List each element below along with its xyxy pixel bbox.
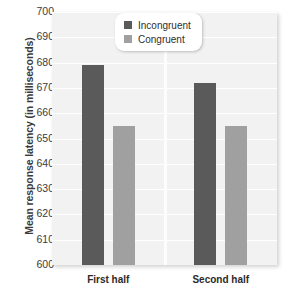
x-axis-tick-label: First half: [52, 274, 165, 285]
y-axis-tick-label: 660: [14, 106, 54, 118]
y-axis-tick-label: 670: [14, 81, 54, 93]
y-axis-tick-label: 690: [14, 30, 54, 42]
y-axis-tick-label: 600: [14, 258, 54, 270]
legend-swatch-icon: [124, 21, 132, 29]
legend-item-label: Incongruent: [138, 20, 191, 31]
y-axis-tick-label: 680: [14, 56, 54, 68]
legend-item: Incongruent: [124, 18, 191, 32]
legend-item: Congruent: [124, 32, 191, 46]
legend-swatch-icon: [124, 35, 132, 43]
x-axis-tick-label: Second half: [165, 274, 278, 285]
y-axis-tick-label: 620: [14, 207, 54, 219]
bar-chart: Mean response latency (in milliseconds) …: [0, 0, 286, 299]
y-axis-tick-label: 630: [14, 182, 54, 194]
legend-item-label: Congruent: [138, 34, 185, 45]
bar-congruent-first-half: [113, 126, 135, 265]
bar-incongruent-second-half: [194, 83, 216, 265]
y-axis-tick-label: 640: [14, 157, 54, 169]
y-axis-tick-label: 610: [14, 233, 54, 245]
bar-congruent-second-half: [225, 126, 247, 265]
chart-legend: IncongruentCongruent: [115, 13, 202, 51]
y-axis-tick-label: 700: [14, 5, 54, 17]
y-axis-tick-label: 650: [14, 132, 54, 144]
bar-incongruent-first-half: [82, 65, 104, 265]
